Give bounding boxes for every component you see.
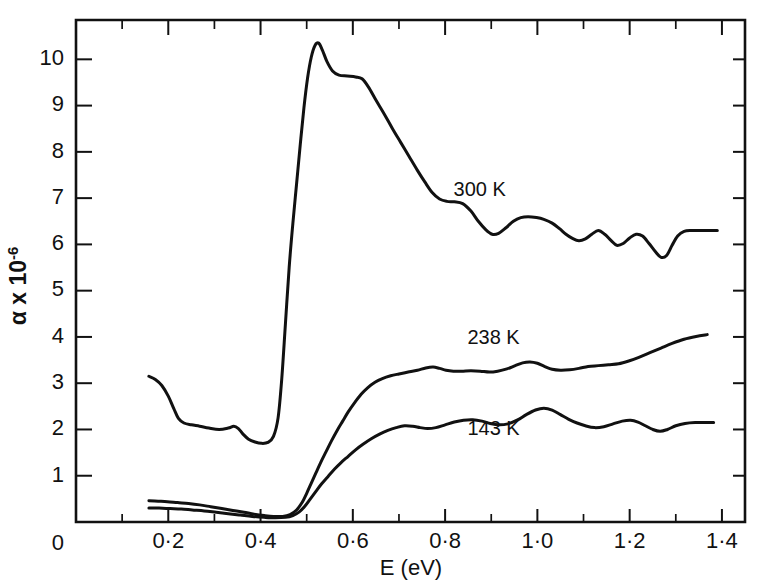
y-tick-label: 8 <box>52 138 64 163</box>
y-tick-label: 4 <box>52 323 64 348</box>
y-tick-label: 7 <box>52 184 64 209</box>
x-tick-label: 0·2 <box>152 528 184 553</box>
series-annotations: 300 K238 K143 K <box>454 178 521 439</box>
data-curve-143-k <box>149 408 714 518</box>
x-tick-label: 1·2 <box>614 528 646 553</box>
plot-frame <box>76 20 745 522</box>
x-tick-label: 1·0 <box>521 528 553 553</box>
x-axis-tick-labels: 0·20·40·60·81·01·21·4 <box>152 528 737 553</box>
y-tick-label: 2 <box>52 415 64 440</box>
axis-frame <box>76 20 745 522</box>
y-tick-label: 1 <box>52 462 64 487</box>
x-tick-label: 0·8 <box>429 528 461 553</box>
x-tick-label: 0·4 <box>245 528 277 553</box>
x-tick-label: 1·4 <box>706 528 738 553</box>
y-axis-tick-labels: 123456789100 <box>40 45 64 555</box>
series-label-238-k: 238 K <box>467 326 520 348</box>
data-curve-300-k <box>149 43 717 444</box>
y-axis-title: α x 10-6 <box>4 247 32 326</box>
data-curves <box>149 43 717 518</box>
absorption-spectrum-chart: 0·20·40·60·81·01·21·4 123456789100 300 K… <box>0 0 770 588</box>
y-origin-label: 0 <box>52 530 64 555</box>
y-tick-label: 6 <box>52 230 64 255</box>
x-axis-title: E (eV) <box>380 555 442 580</box>
y-tick-label: 3 <box>52 369 64 394</box>
series-label-300-k: 300 K <box>454 178 507 200</box>
y-tick-label: 5 <box>52 276 64 301</box>
y-tick-label: 10 <box>40 45 64 70</box>
y-tick-label: 9 <box>52 91 64 116</box>
figure-root: 0·20·40·60·81·01·21·4 123456789100 300 K… <box>0 0 770 588</box>
x-tick-label: 0·6 <box>337 528 369 553</box>
x-axis-ticks <box>122 20 722 522</box>
series-label-143-k: 143 K <box>467 417 520 439</box>
